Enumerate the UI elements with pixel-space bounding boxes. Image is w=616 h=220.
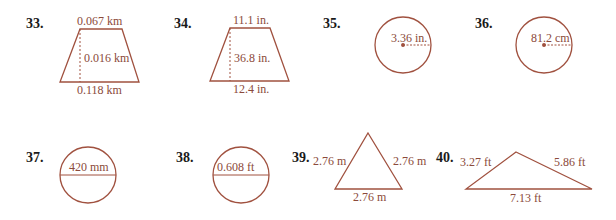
label-top-33: 0.067 km [77, 14, 122, 29]
problem-number-40: 40. [436, 150, 454, 166]
label-bottom-40: 7.13 ft [510, 191, 541, 206]
problem-number-33: 33. [26, 16, 44, 32]
label-bottom-34: 12.4 in. [233, 82, 269, 97]
label-bottom-33: 0.118 km [77, 83, 122, 98]
label-radius-35: 3.36 in. [391, 31, 427, 46]
label-diameter-38: 0.608 ft [217, 160, 254, 175]
label-height-33: 0.016 km [84, 51, 129, 66]
label-left-40: 3.27 ft [460, 155, 491, 170]
label-top-34: 11.1 in. [233, 13, 269, 28]
circle-37 [60, 147, 116, 203]
label-height-34: 36.8 in. [234, 51, 270, 66]
figure-shapes [0, 0, 616, 220]
problem-number-37: 37. [26, 150, 44, 166]
label-right-39: 2.76 m [393, 154, 426, 169]
circle-38 [213, 147, 269, 203]
label-bottom-39: 2.76 m [353, 190, 386, 205]
label-radius-36: 81.2 cm [531, 31, 570, 46]
label-right-40: 5.86 ft [554, 155, 585, 170]
problem-number-38: 38. [176, 150, 194, 166]
problem-number-36: 36. [475, 16, 493, 32]
problem-number-34: 34. [174, 16, 192, 32]
label-left-39: 2.76 m [313, 154, 346, 169]
problem-number-35: 35. [323, 16, 341, 32]
problem-number-39: 39. [292, 150, 310, 166]
label-diameter-37: 420 mm [69, 160, 109, 175]
